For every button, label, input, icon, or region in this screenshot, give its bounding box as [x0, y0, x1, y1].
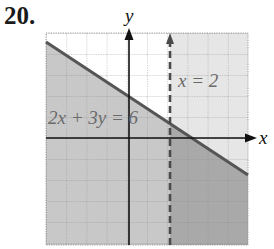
inequality-graph: y x 2x + 3y = 6 x = 2 [0, 0, 274, 249]
x-axis-label: x [258, 127, 268, 148]
y-axis-label: y [123, 5, 134, 26]
x-axis-arrow-icon [245, 134, 257, 143]
line-label-x2: x = 2 [177, 70, 219, 91]
grid [46, 33, 248, 245]
line-label-2x-3y: 2x + 3y = 6 [48, 107, 139, 128]
